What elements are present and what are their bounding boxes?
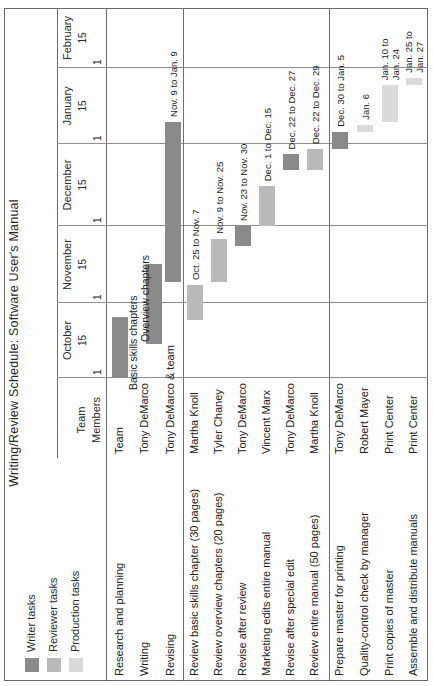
legend-label: Production tasks bbox=[69, 571, 81, 652]
bar-date-label: Oct. 25 to Nov. 7 bbox=[190, 209, 201, 280]
team-member-label: Team bbox=[113, 427, 125, 454]
task-name-label: Marketing edits entire manual bbox=[260, 532, 272, 676]
month-label: October bbox=[61, 303, 73, 378]
gantt-bar bbox=[357, 125, 373, 132]
mid-month-tick-label: 15 bbox=[77, 226, 88, 303]
bar-date-label: Nov. 9 to Nov. 25 bbox=[214, 162, 225, 234]
axis-top-line bbox=[57, 8, 58, 458]
gantt-bar bbox=[406, 78, 422, 85]
legend-item-reviewer: Reviewer tasks bbox=[44, 522, 66, 672]
gantt-bar bbox=[112, 318, 128, 379]
month-label: January bbox=[61, 68, 73, 144]
month-start-tick-label: 1 bbox=[92, 59, 103, 65]
month-gridline bbox=[57, 302, 428, 303]
team-members-header-line1: Team bbox=[75, 380, 87, 460]
month-start-tick-label: 1 bbox=[92, 217, 103, 223]
team-member-label: Martha Knoll bbox=[308, 392, 320, 454]
chart-title: Writing/Review Schedule: Software User's… bbox=[7, 0, 21, 686]
mid-month-tick-label: 15 bbox=[77, 303, 88, 378]
scanned-page: Writing/Review Schedule: Software User's… bbox=[0, 0, 433, 686]
task-name-label: Print copies of master bbox=[383, 570, 395, 676]
bar-date-label: Dec. 1 to Dec. 15 bbox=[262, 108, 273, 181]
team-member-label: Tony DeMarco & team bbox=[164, 345, 176, 454]
gantt-bar bbox=[187, 285, 203, 320]
reviewer-swatch bbox=[47, 658, 61, 672]
month-label: November bbox=[61, 226, 73, 303]
bar-date-label: Nov. 23 to Nov. 30 bbox=[238, 144, 249, 221]
bar-date-label: Dec. 22 to Dec. 27 bbox=[286, 71, 297, 150]
team-member-label: Tony DeMarco bbox=[138, 383, 150, 454]
month-start-tick-label: 1 bbox=[92, 135, 103, 141]
month-label: December bbox=[61, 144, 73, 226]
team-member-label: Print Center bbox=[407, 395, 419, 454]
task-name-label: Research and planning bbox=[113, 563, 125, 676]
gantt-bar bbox=[332, 132, 348, 149]
bar-date-label: Jan. 24 bbox=[390, 49, 401, 80]
gantt-bar bbox=[307, 149, 323, 170]
gantt-bar bbox=[235, 226, 251, 247]
bar-date-label: Nov. 9 to Jan. 9 bbox=[168, 51, 179, 117]
gantt-bar bbox=[165, 122, 181, 282]
month-gridline bbox=[57, 67, 428, 68]
mid-month-tick-label: 15 bbox=[77, 8, 88, 68]
team-member-label: Tony DeMarco bbox=[284, 383, 296, 454]
writer-swatch bbox=[25, 658, 39, 672]
team-members-header-line2: Members bbox=[90, 380, 102, 460]
legend-item-production: Production tasks bbox=[66, 522, 88, 672]
bar-date-label: Dec. 22 to Dec. 29 bbox=[310, 65, 321, 144]
task-name-label: Writing bbox=[138, 642, 150, 676]
legend-item-writer: Writer tasks bbox=[22, 522, 44, 672]
team-member-label: Vincent Marx bbox=[260, 390, 272, 454]
team-member-label: Tyler Chaney bbox=[212, 389, 224, 454]
bar-date-label: Jan. 25 to bbox=[403, 31, 414, 73]
team-member-label: Print Center bbox=[383, 395, 395, 454]
month-start-tick-label: 1 bbox=[92, 369, 103, 375]
team-member-label: Tony DeMarco bbox=[236, 383, 248, 454]
task-name-label: Revising bbox=[164, 634, 176, 676]
bar-date-label: Jan. 27 bbox=[414, 42, 425, 73]
bar-date-label: Jan. 10 to bbox=[379, 38, 390, 80]
legend-label: Writer tasks bbox=[25, 594, 37, 652]
mid-month-tick-label: 15 bbox=[77, 68, 88, 144]
section-separator-line bbox=[329, 8, 330, 681]
bar-date-label: Jan. 6 bbox=[360, 94, 371, 120]
gantt-bar bbox=[259, 186, 275, 226]
task-name-label: Review entire manual (50 pages) bbox=[308, 515, 320, 676]
task-name-label: Assemble and distribute manuals bbox=[407, 514, 419, 676]
month-start-tick-label: 1 bbox=[92, 294, 103, 300]
month-label: February bbox=[61, 8, 73, 68]
legend-label: Reviewer tasks bbox=[47, 577, 59, 652]
team-member-label: Martha Knoll bbox=[188, 392, 200, 454]
mid-month-tick-label: 15 bbox=[77, 144, 88, 226]
bar-phase-label: Basic skills chapters bbox=[127, 295, 139, 390]
task-name-label: Revise after special edit bbox=[284, 559, 296, 676]
gantt-bar bbox=[211, 239, 227, 283]
gantt-bar bbox=[283, 154, 299, 170]
task-name-label: Prepare master for printing bbox=[333, 545, 345, 676]
gantt-chart: Writing/Review Schedule: Software User's… bbox=[0, 0, 433, 686]
bar-phase-label: Overview chapters bbox=[139, 255, 151, 342]
production-swatch bbox=[69, 658, 83, 672]
team-member-label: Tony DeMarco bbox=[333, 383, 345, 454]
task-name-label: Quality-control check by manager bbox=[358, 512, 370, 676]
legend: Writer tasks Reviewer tasks Production t… bbox=[22, 522, 88, 672]
task-name-label: Review overview chapters (20 pages) bbox=[212, 493, 224, 676]
team-member-label: Robert Mayer bbox=[358, 387, 370, 454]
bar-date-label: Dec. 30 to Jan. 5 bbox=[335, 55, 346, 127]
section-separator-line bbox=[183, 8, 184, 681]
gantt-bar bbox=[382, 85, 398, 122]
task-name-label: Revise after review bbox=[236, 582, 248, 676]
header-separator-line bbox=[106, 8, 107, 681]
task-name-label: Review basic skills chapter (30 pages) bbox=[188, 489, 200, 676]
